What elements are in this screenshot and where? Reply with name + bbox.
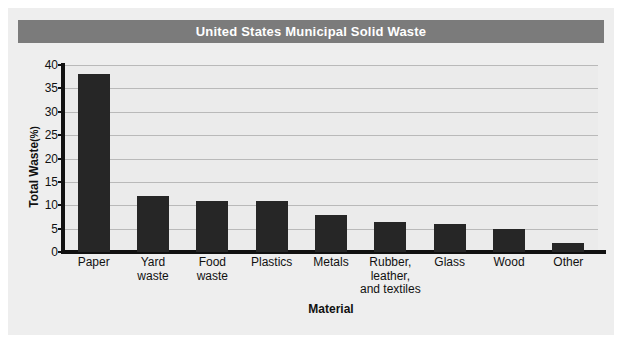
- bar[interactable]: [552, 243, 584, 252]
- chart-area: Total Waste(%) 0510152025303540 PaperYar…: [18, 52, 604, 327]
- bar[interactable]: [374, 222, 406, 252]
- bar[interactable]: [493, 229, 525, 252]
- bar[interactable]: [434, 224, 466, 252]
- y-tick-label: 40: [26, 58, 58, 72]
- y-tick-label: 25: [26, 128, 58, 142]
- y-tick-label: 35: [26, 81, 58, 95]
- x-category-line: waste: [179, 270, 246, 284]
- x-category-line: Yard: [119, 256, 186, 270]
- chart-title-band: United States Municipal Solid Waste: [18, 20, 604, 43]
- x-category-label: Plastics: [238, 256, 305, 270]
- x-category-line: Rubber,: [357, 256, 424, 270]
- x-category-line: leather,: [357, 270, 424, 284]
- bar[interactable]: [256, 201, 288, 252]
- x-category-line: Plastics: [238, 256, 305, 270]
- x-category-label: Metals: [297, 256, 364, 270]
- x-category-label: Other: [535, 256, 602, 270]
- x-category-label: Wood: [475, 256, 542, 270]
- y-tick-label: 5: [26, 222, 58, 236]
- x-category-label: Foodwaste: [179, 256, 246, 283]
- x-category-label: Rubber,leather,and textiles: [357, 256, 424, 297]
- x-category-line: Metals: [297, 256, 364, 270]
- x-category-label: Paper: [60, 256, 127, 270]
- x-category-line: Other: [535, 256, 602, 270]
- bar[interactable]: [137, 196, 169, 252]
- y-tick-label: 15: [26, 175, 58, 189]
- y-tick-label: 30: [26, 105, 58, 119]
- x-axis-title: Material: [64, 302, 598, 316]
- chart-title: United States Municipal Solid Waste: [196, 24, 426, 39]
- y-tick-label: 20: [26, 152, 58, 166]
- x-category-label: Glass: [416, 256, 483, 270]
- chart-figure: United States Municipal Solid Waste Tota…: [0, 0, 622, 347]
- x-axis-categories: PaperYardwasteFoodwastePlasticsMetalsRub…: [64, 256, 598, 308]
- x-category-line: waste: [119, 270, 186, 284]
- x-category-line: Food: [179, 256, 246, 270]
- bar[interactable]: [315, 215, 347, 252]
- bar[interactable]: [196, 201, 228, 252]
- x-category-line: Paper: [60, 256, 127, 270]
- y-tick-label: 10: [26, 198, 58, 212]
- x-category-line: and textiles: [357, 283, 424, 297]
- y-tick-label: 0: [26, 245, 58, 259]
- bar-series: [64, 65, 598, 252]
- bar[interactable]: [78, 74, 110, 252]
- x-category-line: Glass: [416, 256, 483, 270]
- x-category-label: Yardwaste: [119, 256, 186, 283]
- x-category-line: Wood: [475, 256, 542, 270]
